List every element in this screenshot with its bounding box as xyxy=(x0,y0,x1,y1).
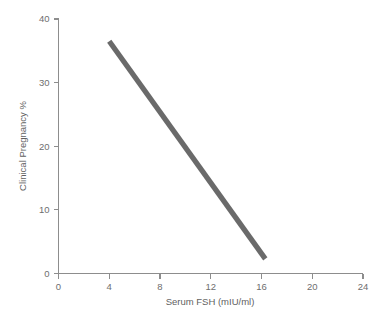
y-tick-label: 0 xyxy=(44,268,49,279)
x-tick-label: 16 xyxy=(256,281,267,292)
data-series-line xyxy=(109,41,265,259)
line-chart: 010203040 04812162024 Serum FSH (mIU/ml)… xyxy=(0,0,383,326)
y-tick-label: 30 xyxy=(39,77,50,88)
y-tick-label: 20 xyxy=(39,141,50,152)
x-axis-tick-labels: 04812162024 xyxy=(56,281,368,292)
x-tick-label: 24 xyxy=(358,281,369,292)
x-axis-ticks xyxy=(59,274,364,279)
x-axis-title: Serum FSH (mIU/ml) xyxy=(166,296,255,307)
x-tick-label: 0 xyxy=(56,281,61,292)
y-tick-label: 40 xyxy=(39,13,50,24)
y-axis-ticks xyxy=(54,19,59,274)
chart-container: 010203040 04812162024 Serum FSH (mIU/ml)… xyxy=(0,0,383,326)
x-tick-label: 8 xyxy=(157,281,162,292)
y-axis-title: Clinical Pregnancy % xyxy=(17,101,28,191)
y-axis-tick-labels: 010203040 xyxy=(39,13,50,279)
data-series-group xyxy=(109,41,265,259)
x-tick-label: 20 xyxy=(307,281,318,292)
y-tick-label: 10 xyxy=(39,204,50,215)
x-tick-label: 4 xyxy=(107,281,112,292)
x-tick-label: 12 xyxy=(205,281,216,292)
